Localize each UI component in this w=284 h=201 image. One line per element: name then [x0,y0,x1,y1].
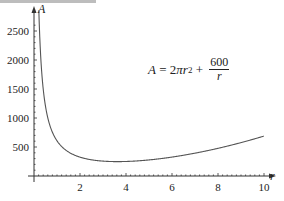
x-tick-label: 6 [169,181,175,193]
y-tick-label: 2000 [7,54,30,66]
formula-lhs: A [148,62,156,78]
y-tick-label: 2500 [7,25,30,37]
x-tick-label: 10 [259,181,271,193]
y-axis-label: A [37,2,46,16]
x-tick-label: 4 [123,181,129,193]
formula-fraction: 600 r [209,56,229,83]
x-tick-label: 2 [77,181,83,193]
y-tick-label: 1000 [7,112,30,124]
x-tick-label: 8 [215,181,221,193]
fraction-numerator: 600 [209,56,229,70]
fraction-denominator: r [217,70,222,83]
formula-plus: + [192,62,206,78]
data-curve [39,10,264,161]
y-tick-label: 1500 [7,83,30,95]
chart-canvas: 2468105001000150020002500 r A [0,0,284,201]
formula-annotation: A = 2 π r 2 + 600 r [148,56,229,83]
axes [28,6,276,182]
x-axis-label: r [270,169,275,183]
formula-eq: = 2 [156,62,176,78]
y-tick-label: 500 [13,141,30,153]
